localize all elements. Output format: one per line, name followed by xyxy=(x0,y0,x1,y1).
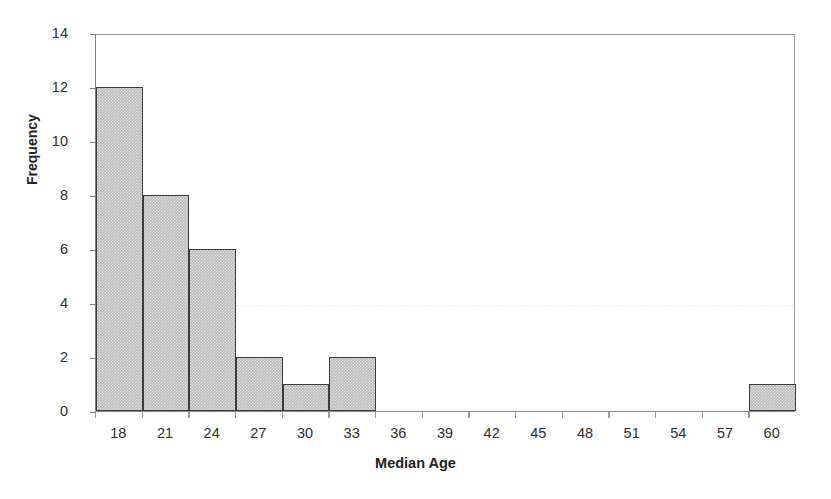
x-axis-tick-mark xyxy=(655,412,656,418)
bar xyxy=(329,357,376,411)
x-axis-title: Median Age xyxy=(0,455,831,471)
x-axis-tick-mark xyxy=(142,412,143,418)
x-axis-tick-mark xyxy=(422,412,423,418)
bar xyxy=(189,249,236,411)
y-axis-tick-label: 2 xyxy=(0,349,80,365)
x-axis-tick-mark xyxy=(608,412,609,418)
y-axis-tick-label: 6 xyxy=(0,241,80,257)
x-axis-tick-mark xyxy=(702,412,703,418)
bar xyxy=(236,357,283,411)
x-axis-tick-mark xyxy=(515,412,516,418)
bar xyxy=(96,87,143,411)
x-axis-tick-mark xyxy=(562,412,563,418)
plot-area xyxy=(95,34,795,412)
y-axis-tick-label: 4 xyxy=(0,295,80,311)
y-axis-tick-label: 14 xyxy=(0,25,80,41)
x-axis-tick-mark xyxy=(95,412,96,418)
y-axis-tick-label: 0 xyxy=(0,403,80,419)
x-axis-tick-mark xyxy=(468,412,469,418)
y-axis-tick-label: 8 xyxy=(0,187,80,203)
bar xyxy=(749,384,796,411)
x-axis-tick-mark xyxy=(235,412,236,418)
x-axis-tick-mark xyxy=(375,412,376,418)
x-axis-tick-mark xyxy=(282,412,283,418)
x-axis-tick-mark xyxy=(328,412,329,418)
y-axis-title: Frequency xyxy=(24,114,40,185)
bar xyxy=(283,384,330,411)
x-axis-tick-mark xyxy=(748,412,749,418)
y-axis-tick-label: 12 xyxy=(0,79,80,95)
x-axis-tick-mark xyxy=(188,412,189,418)
bar xyxy=(143,195,190,411)
y-axis-tick-label: 10 xyxy=(0,133,80,149)
x-axis-tick-label: 60 xyxy=(742,425,802,441)
histogram-chart: Frequency 02468101214 182124273033363942… xyxy=(0,0,831,499)
